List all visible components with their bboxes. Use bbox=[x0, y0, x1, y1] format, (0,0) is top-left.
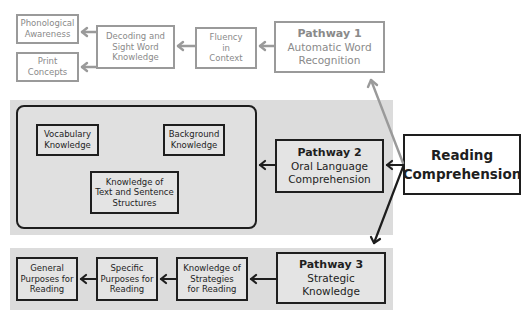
connector-arrows bbox=[0, 0, 530, 319]
